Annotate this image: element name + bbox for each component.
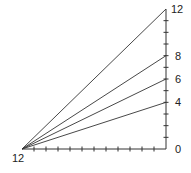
vertical-label-4: 4 bbox=[175, 96, 181, 108]
tick-marks bbox=[34, 21, 169, 152]
ray-to-12 bbox=[22, 9, 166, 149]
rays bbox=[22, 9, 166, 149]
vertical-label-8: 8 bbox=[175, 50, 181, 62]
ray-to-8 bbox=[22, 56, 166, 149]
ray-to-4 bbox=[22, 102, 166, 149]
origin-label: 12 bbox=[12, 152, 24, 164]
ray-to-6 bbox=[22, 79, 166, 149]
vertical-label-0: 0 bbox=[175, 143, 181, 155]
vertical-label-12: 12 bbox=[171, 3, 183, 15]
vertical-label-6: 6 bbox=[175, 73, 181, 85]
triangle-diagram: 12864012 bbox=[0, 0, 191, 173]
